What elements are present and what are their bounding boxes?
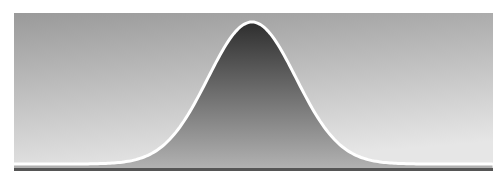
figure-stage [0, 0, 504, 178]
bell-curve-graphic [14, 13, 493, 171]
baseline-axis [14, 168, 493, 171]
bell-curve-panel [14, 13, 493, 171]
